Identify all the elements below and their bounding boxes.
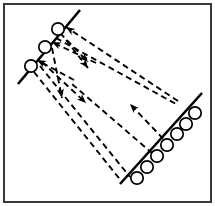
- circle-ul-1: [25, 60, 37, 72]
- circle-lr-1: [131, 172, 143, 184]
- scattering-diagram: [0, 0, 215, 206]
- circle-lr-4: [161, 139, 173, 151]
- circle-lr-2: [141, 161, 153, 173]
- circle-lr-6: [180, 118, 192, 130]
- circle-lr-3: [151, 150, 163, 162]
- circle-lr-5: [171, 128, 183, 140]
- figure-border: [4, 4, 211, 202]
- circle-ul-2: [39, 41, 51, 53]
- circle-lr-7: [189, 107, 201, 119]
- circle-ul-3: [52, 23, 64, 35]
- figure-root: [0, 0, 215, 206]
